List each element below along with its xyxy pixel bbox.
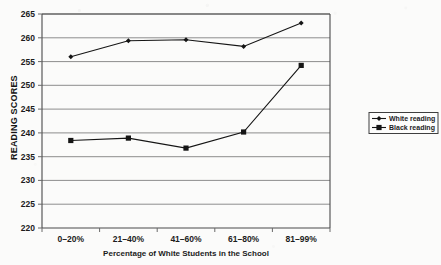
series-black-reading-markers — [68, 63, 304, 151]
y-tick-label: 250 — [21, 80, 35, 90]
series-black-reading-line — [71, 65, 301, 148]
square-icon — [183, 146, 188, 151]
diamond-icon — [126, 38, 131, 43]
y-tick-label: 220 — [21, 223, 35, 233]
x-tickmarks — [42, 228, 330, 232]
y-tick-label: 240 — [21, 128, 35, 138]
y-tick-label: 255 — [21, 57, 35, 67]
y-tick-label: 230 — [21, 175, 35, 185]
y-axis-tick-labels: 265 260 255 250 245 240 235 230 225 220 — [21, 9, 35, 233]
x-tick-label-81-99: 81–99% — [286, 234, 318, 244]
diamond-icon — [68, 54, 73, 59]
chart-legend: White reading Black reading — [369, 113, 438, 134]
x-axis-title: Percentage of White Students in the Scho… — [103, 249, 269, 258]
y-tickmarks — [38, 14, 42, 228]
legend-label-black-reading: Black reading — [389, 124, 435, 132]
chart-page: 265 260 255 250 245 240 235 230 225 220 … — [0, 0, 441, 265]
legend-label-white-reading: White reading — [389, 115, 435, 123]
square-icon — [126, 136, 131, 141]
diamond-icon — [241, 44, 246, 49]
diamond-icon — [299, 21, 304, 26]
y-tick-label: 245 — [21, 104, 35, 114]
x-tick-label-61-80: 61–80% — [228, 234, 260, 244]
y-axis-title: READING SCORES — [9, 75, 19, 160]
square-icon — [68, 138, 73, 143]
reading-scores-line-chart: 265 260 255 250 245 240 235 230 225 220 … — [0, 0, 441, 265]
x-tick-label-0-20: 0–20% — [58, 234, 85, 244]
square-icon — [241, 129, 246, 134]
series-white-reading — [68, 21, 303, 60]
y-tick-label: 260 — [21, 33, 35, 43]
x-tick-label-21-40: 21–40% — [113, 234, 145, 244]
y-tick-label: 235 — [21, 152, 35, 162]
series-white-reading-markers — [68, 21, 303, 60]
series-black-reading — [68, 63, 304, 151]
y-tick-label: 265 — [21, 9, 35, 19]
x-axis-tick-labels: 0–20% 21–40% 41–60% 61–80% 81–99% — [58, 234, 318, 244]
y-tick-label: 225 — [21, 199, 35, 209]
square-icon — [376, 125, 381, 130]
gridlines — [42, 14, 330, 204]
plot-frame — [42, 14, 330, 228]
square-icon — [299, 63, 304, 68]
x-tick-label-41-60: 41–60% — [170, 234, 202, 244]
